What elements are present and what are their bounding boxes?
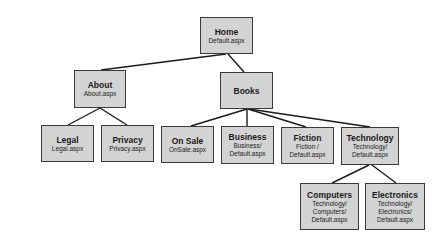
node-business: BusinessBusiness/ Default.aspx [221, 126, 274, 164]
node-title: Computers [307, 190, 352, 200]
node-books: Books [220, 72, 273, 109]
node-url: Technology/ Electronics/ Default.aspx [377, 200, 413, 224]
node-about: AboutAbout.aspx [74, 70, 126, 108]
node-title: On Sale [172, 136, 204, 146]
node-onsale: On SaleOnSale.aspx [161, 126, 214, 163]
node-title: Electronics [372, 190, 418, 200]
link-about-legal [68, 108, 100, 125]
node-url: Legal.aspx [52, 145, 83, 153]
node-url: About.aspx [84, 90, 117, 98]
link-technology-electronics [372, 165, 396, 183]
node-url: Fiction / Default.aspx [289, 143, 325, 159]
link-home-books [228, 54, 244, 72]
link-books-onsale [191, 109, 247, 126]
link-books-technology [249, 109, 370, 127]
node-url: Technology/ Default.aspx [352, 143, 388, 159]
node-url: Business/ Default.aspx [229, 142, 265, 158]
node-title: About [88, 80, 113, 90]
link-about-privacy [100, 108, 127, 125]
node-privacy: PrivacyPrivacy.aspx [101, 125, 154, 162]
node-url: OnSale.aspx [169, 146, 206, 154]
node-url: Default.aspx [208, 37, 244, 45]
node-legal: LegalLegal.aspx [41, 125, 94, 162]
node-title: Business [229, 132, 267, 142]
node-title: Privacy [112, 135, 142, 145]
node-home: HomeDefault.aspx [200, 17, 253, 54]
node-title: Books [234, 86, 260, 96]
node-computers: ComputersTechnology/ Computers/ Default.… [300, 183, 359, 230]
node-technology: TechnologyTechnology/ Default.aspx [341, 127, 399, 165]
node-fiction: FictionFiction / Default.aspx [281, 127, 334, 164]
node-electronics: ElectronicsTechnology/ Electronics/ Defa… [365, 183, 425, 230]
node-title: Legal [56, 135, 78, 145]
site-map-diagram: HomeDefault.aspxAboutAbout.aspxBooksLega… [0, 0, 448, 239]
node-url: Technology/ Computers/ Default.aspx [311, 200, 347, 224]
link-technology-computers [332, 165, 369, 183]
node-title: Home [215, 27, 239, 37]
node-title: Fiction [294, 133, 322, 143]
node-title: Technology [346, 133, 393, 143]
link-home-about [101, 54, 226, 70]
node-url: Privacy.aspx [109, 145, 145, 153]
link-books-fiction [248, 109, 306, 127]
